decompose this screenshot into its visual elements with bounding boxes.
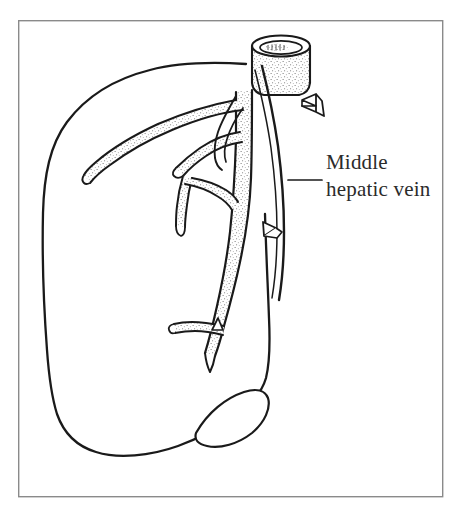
label-line-1: Middle <box>326 150 388 174</box>
middle-hepatic-vein-surface-line <box>255 66 284 300</box>
label-line-2: hepatic vein <box>326 177 431 201</box>
surgical-clip-lower <box>263 222 282 238</box>
surgical-clip-upper <box>302 94 324 116</box>
inferior-vena-cava-stump <box>252 36 310 96</box>
figure-root: Middle hepatic vein <box>0 0 462 518</box>
gallbladder <box>195 390 268 447</box>
anatomical-illustration: Middle hepatic vein <box>0 0 462 518</box>
middle-hepatic-vein <box>83 90 253 372</box>
